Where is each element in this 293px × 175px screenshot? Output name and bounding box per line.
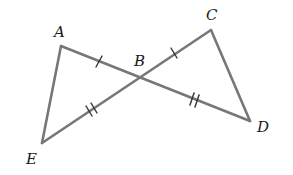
geometry-diagram: A B C D E (0, 0, 293, 175)
point-label-E: E (25, 150, 37, 168)
point-label-C: C (206, 6, 218, 24)
point-label-A: A (52, 23, 65, 41)
diagram-svg: A B C D E (0, 0, 293, 175)
segment-AE (42, 46, 61, 143)
point-label-D: D (256, 118, 269, 136)
point-label-B: B (133, 52, 145, 70)
segment-CE (42, 30, 211, 143)
